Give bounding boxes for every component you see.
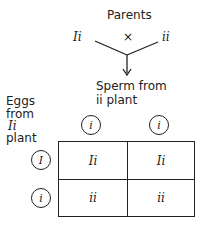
parent-left-genotype: Ii: [73, 31, 82, 44]
cross-symbol: ×: [123, 31, 133, 44]
sperm-gamete-circle-2: i: [149, 115, 169, 135]
parent-right-genotype: ii: [162, 31, 170, 44]
sperm-label-line1: Sperm from: [96, 80, 167, 93]
sperm-gamete-circle-1: i: [81, 115, 101, 135]
punnett-square: Ii Ii ii ii: [58, 141, 195, 217]
punnett-cell-r1c2: Ii: [127, 142, 194, 179]
punnett-cell-r2c1: ii: [59, 179, 127, 216]
egg-gamete-circle-1: I: [31, 150, 51, 170]
punnett-cell-r1c1: Ii: [59, 142, 127, 179]
egg-gamete-circle-2: i: [31, 188, 51, 208]
punnett-cell-r2c2: ii: [127, 179, 194, 216]
sperm-label-line2: ii plant: [96, 94, 137, 107]
eggs-label-line4: plant: [6, 132, 37, 145]
parents-title: Parents: [107, 9, 152, 22]
